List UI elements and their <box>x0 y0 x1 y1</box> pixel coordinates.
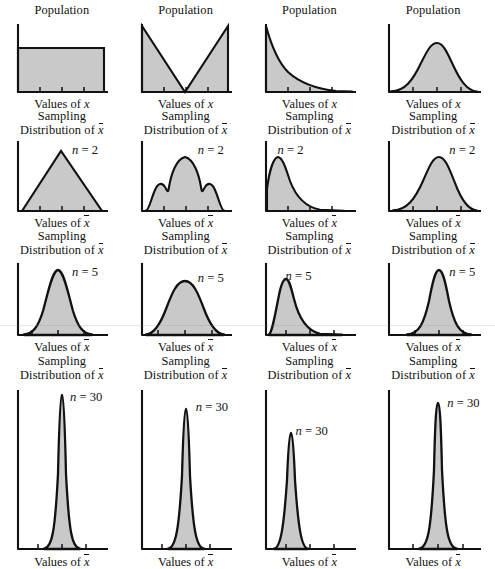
x-axis-label: Values of x <box>248 555 372 569</box>
distribution-curve <box>168 409 204 549</box>
caption-line-1: Sampling <box>248 230 372 244</box>
sampling-n5-ushaped-chart <box>124 257 247 339</box>
caption-line: Population <box>248 4 372 18</box>
panel-sampling-n2-ushaped: Sampling Distribution of x n = 2 Values … <box>124 108 248 228</box>
sample-size-label: n = 30 <box>70 390 102 405</box>
panel-caption: Sampling Distribution of x <box>248 353 372 382</box>
distribution-curve <box>142 26 228 92</box>
plot-area <box>124 18 248 96</box>
x-axis-label: Values of x <box>124 555 248 569</box>
x-axis-label: Values of x <box>371 555 495 569</box>
caption-line-1: Sampling <box>0 230 124 244</box>
panel-sampling-n30-ushaped: Sampling Distribution of x n = 30 Values… <box>124 353 248 569</box>
caption-line-1: Sampling <box>124 230 248 244</box>
population-uniform-chart <box>0 18 123 96</box>
xbar-symbol: x <box>331 555 337 569</box>
caption-line-1: Sampling <box>124 355 248 369</box>
distribution-curve <box>419 403 457 549</box>
caption-line-1: Sampling <box>248 355 372 369</box>
panel-caption: Sampling Distribution of x <box>0 353 124 382</box>
distribution-curve <box>22 151 102 211</box>
caption-prefix: Distribution of <box>20 243 98 257</box>
population-ushaped-chart <box>124 18 247 96</box>
xbar-symbol: x <box>222 244 228 258</box>
sample-size-value: 5 <box>217 271 223 285</box>
distribution-curve <box>393 157 477 211</box>
caption-line: Population <box>124 4 248 18</box>
sample-size-value: 2 <box>469 143 475 157</box>
distribution-curve <box>266 26 352 92</box>
caption-line-1: Sampling <box>371 110 495 124</box>
sample-size-label: n = 5 <box>449 265 475 280</box>
panel-caption: Sampling Distribution of x <box>0 228 124 257</box>
sampling-n2-normal-chart <box>371 137 494 215</box>
distribution-curve <box>18 48 104 92</box>
distribution-curve <box>274 433 308 549</box>
sample-size-value: 5 <box>469 265 475 279</box>
xbar-symbol: x <box>208 555 214 569</box>
caption-line: Population <box>0 4 124 18</box>
distribution-curve <box>267 157 344 211</box>
caption-prefix: Distribution of <box>391 368 469 382</box>
x-axis-label-text: Values of <box>158 555 208 569</box>
caption-line-2: Distribution of x <box>124 369 248 383</box>
panel-caption: Sampling Distribution of x <box>124 353 248 382</box>
caption-line-1: Sampling <box>371 230 495 244</box>
caption-prefix: Distribution of <box>144 368 222 382</box>
plot-area: n = 2 <box>124 137 248 215</box>
sample-size-value: 5 <box>305 269 311 283</box>
caption-line-1: Sampling <box>124 110 248 124</box>
caption-line-2: Distribution of x <box>248 244 372 258</box>
panel-population-exponential: Population Values of x <box>248 0 372 108</box>
sample-size-value: 30 <box>90 390 103 404</box>
xbar-symbol: x <box>222 124 228 138</box>
panel-caption: Population <box>0 0 124 18</box>
panel-sampling-n5-ushaped: Sampling Distribution of x n = 5 Values … <box>124 228 248 353</box>
plot-area <box>0 18 124 96</box>
caption-line-2: Distribution of x <box>248 124 372 138</box>
xbar-symbol: x <box>469 124 475 138</box>
panel-sampling-n5-normal: Sampling Distribution of x n = 5 Values … <box>371 228 495 353</box>
plot-area <box>248 18 372 96</box>
panel-sampling-n2-uniform: Sampling Distribution of x n = 2 Values … <box>0 108 124 228</box>
caption-line-2: Distribution of x <box>0 244 124 258</box>
x-axis-label-text: Values of <box>34 555 84 569</box>
sampling-n5-uniform-chart <box>0 257 123 339</box>
caption-line-2: Distribution of x <box>0 124 124 138</box>
sample-size-label: n = 30 <box>196 400 228 415</box>
xbar-symbol: x <box>222 369 228 383</box>
caption-line-1: Sampling <box>0 110 124 124</box>
sample-size-value: 2 <box>297 143 303 157</box>
caption-line-1: Sampling <box>0 355 124 369</box>
plot-area: n = 30 <box>0 382 124 554</box>
plot-area: n = 30 <box>124 382 248 554</box>
caption-prefix: Distribution of <box>20 123 98 137</box>
caption-prefix: Distribution of <box>391 243 469 257</box>
sample-size-label: n = 30 <box>447 396 479 411</box>
caption-line-2: Distribution of x <box>371 244 495 258</box>
sample-size-value: 30 <box>215 400 228 414</box>
panel-caption: Sampling Distribution of x <box>371 228 495 257</box>
plot-area: n = 5 <box>124 257 248 339</box>
caption-line-2: Distribution of x <box>124 124 248 138</box>
xbar-symbol: x <box>346 124 352 138</box>
panel-caption: Sampling Distribution of x <box>248 228 372 257</box>
sample-size-value: 30 <box>315 424 328 438</box>
caption-line: Population <box>371 4 495 18</box>
distribution-curve <box>391 43 477 92</box>
xbar-symbol: x <box>346 244 352 258</box>
plot-area: n = 5 <box>0 257 124 339</box>
panel-population-normal: Population Values of x <box>371 0 495 108</box>
panel-sampling-n2-normal: Sampling Distribution of x n = 2 Values … <box>371 108 495 228</box>
panel-caption: Population <box>124 0 248 18</box>
sampling-n30-exponential-chart <box>248 382 371 554</box>
population-exponential-chart <box>248 18 371 96</box>
sample-size-label: n = 5 <box>286 269 312 284</box>
x-axis-label: Values of x <box>0 555 124 569</box>
sampling-n2-ushaped-chart <box>124 137 247 215</box>
panel-caption: Population <box>371 0 495 18</box>
sample-size-value: 2 <box>217 143 223 157</box>
panel-sampling-n30-normal: Sampling Distribution of x n = 30 Values… <box>371 353 495 569</box>
xbar-symbol: x <box>98 124 104 138</box>
plot-area: n = 2 <box>371 137 495 215</box>
